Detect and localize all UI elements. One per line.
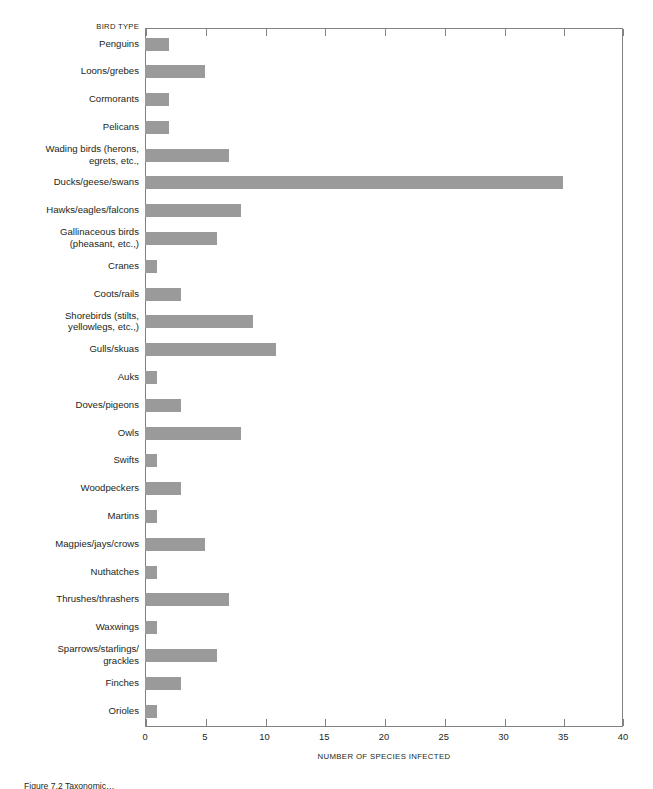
category-label: Owls bbox=[0, 427, 139, 439]
category-label: Auks bbox=[0, 371, 139, 383]
bar bbox=[145, 371, 157, 384]
category-label: Waxwings bbox=[0, 621, 139, 633]
category-label: Gulls/skuas bbox=[0, 343, 139, 355]
bar bbox=[145, 315, 253, 328]
category-label: Woodpeckers bbox=[0, 482, 139, 494]
bar bbox=[145, 204, 241, 217]
bar bbox=[145, 621, 157, 634]
x-axis-tick-label: 40 bbox=[618, 731, 628, 742]
x-axis-tick-label: 5 bbox=[202, 731, 207, 742]
category-label-column: BIRD TYPE PenguinsLoons/grebesCormorants… bbox=[0, 28, 139, 727]
x-axis-title: NUMBER OF SPECIES INFECTED bbox=[145, 752, 623, 761]
bar-chart-figure: BIRD TYPE PenguinsLoons/grebesCormorants… bbox=[0, 0, 653, 789]
bar bbox=[145, 454, 157, 467]
category-label: Coots/rails bbox=[0, 288, 139, 300]
category-label: Penguins bbox=[0, 38, 139, 50]
bar bbox=[145, 343, 276, 356]
bar bbox=[145, 677, 181, 690]
category-label: Wading birds (herons, egrets, etc., bbox=[0, 143, 139, 166]
bar bbox=[145, 93, 169, 106]
category-label: Shorebirds (stilts, yellowlegs, etc.,) bbox=[0, 310, 139, 333]
category-label: Pelicans bbox=[0, 121, 139, 133]
bar bbox=[145, 705, 157, 718]
bar bbox=[145, 65, 205, 78]
category-label: Cormorants bbox=[0, 93, 139, 105]
category-label: Ducks/geese/swans bbox=[0, 176, 139, 188]
x-axis-tick-label: 25 bbox=[439, 731, 449, 742]
figure-caption: Figure 7.2 Taxonomic… bbox=[24, 781, 624, 789]
x-axis-tick-label: 20 bbox=[379, 731, 389, 742]
category-label: Sparrows/starlings/ grackles bbox=[0, 643, 139, 666]
category-label: Finches bbox=[0, 677, 139, 689]
x-axis-tick-label: 35 bbox=[558, 731, 568, 742]
x-axis-tick-bottom bbox=[623, 719, 624, 726]
x-axis-tick-top bbox=[623, 29, 624, 36]
bar bbox=[145, 288, 181, 301]
bar bbox=[145, 176, 563, 189]
x-axis-tick-label: 15 bbox=[319, 731, 329, 742]
category-label: Gallinaceous birds (pheasant, etc.,) bbox=[0, 226, 139, 249]
category-label: Magpies/jays/crows bbox=[0, 538, 139, 550]
y-axis-title: BIRD TYPE bbox=[0, 22, 139, 31]
bar bbox=[145, 566, 157, 579]
category-label: Doves/pigeons bbox=[0, 399, 139, 411]
bar bbox=[145, 649, 217, 662]
bar bbox=[145, 38, 169, 51]
x-axis-tick-label: 30 bbox=[498, 731, 508, 742]
category-label: Hawks/eagles/falcons bbox=[0, 204, 139, 216]
category-label: Swifts bbox=[0, 454, 139, 466]
category-label: Nuthatches bbox=[0, 566, 139, 578]
x-axis-tick-label: 10 bbox=[259, 731, 269, 742]
x-axis-tick-labels: 0510152025303540 bbox=[145, 731, 623, 745]
bars-layer bbox=[145, 28, 623, 727]
bar bbox=[145, 121, 169, 134]
category-label: Martins bbox=[0, 510, 139, 522]
category-label: Cranes bbox=[0, 260, 139, 272]
bar bbox=[145, 427, 241, 440]
category-label: Loons/grebes bbox=[0, 65, 139, 77]
category-label: Thrushes/thrashers bbox=[0, 593, 139, 605]
bar bbox=[145, 510, 157, 523]
x-axis-tick-label: 0 bbox=[142, 731, 147, 742]
bar bbox=[145, 593, 229, 606]
bar bbox=[145, 260, 157, 273]
category-label: Orioles bbox=[0, 705, 139, 717]
bar bbox=[145, 149, 229, 162]
bar bbox=[145, 399, 181, 412]
bar bbox=[145, 482, 181, 495]
bar bbox=[145, 538, 205, 551]
bar bbox=[145, 232, 217, 245]
